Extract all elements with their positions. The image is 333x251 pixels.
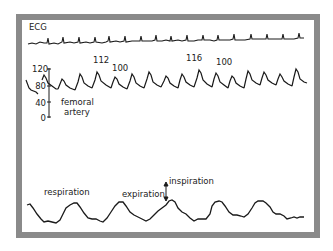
inspiration-arrow-icon — [164, 182, 168, 201]
femoral-artery-trace — [26, 69, 307, 94]
femoral-y-axis — [47, 68, 51, 118]
ecg-trace — [28, 33, 304, 44]
respiration-trace — [27, 200, 304, 223]
traces — [0, 0, 333, 251]
